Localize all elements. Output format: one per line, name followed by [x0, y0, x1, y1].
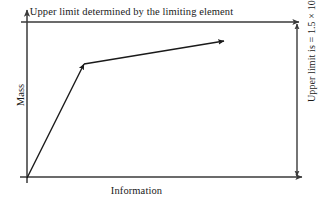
- x-axis-label: Information: [0, 185, 321, 196]
- y-axis-label: Mass: [15, 80, 26, 110]
- right-axis-upper-limit-label: Upper limit is = 1.5 × 107 GJ/g: [306, 0, 317, 102]
- data-segment-shallow: [84, 41, 224, 64]
- figure-mass-vs-information: Upper limit determined by the limiting e…: [0, 0, 321, 202]
- right-label-prefix: Upper limit is = 1.5 × 10: [306, 0, 317, 102]
- figure-canvas: [0, 0, 321, 202]
- chart-title: Upper limit determined by the limiting e…: [0, 6, 321, 17]
- data-segment-steep: [27, 64, 84, 178]
